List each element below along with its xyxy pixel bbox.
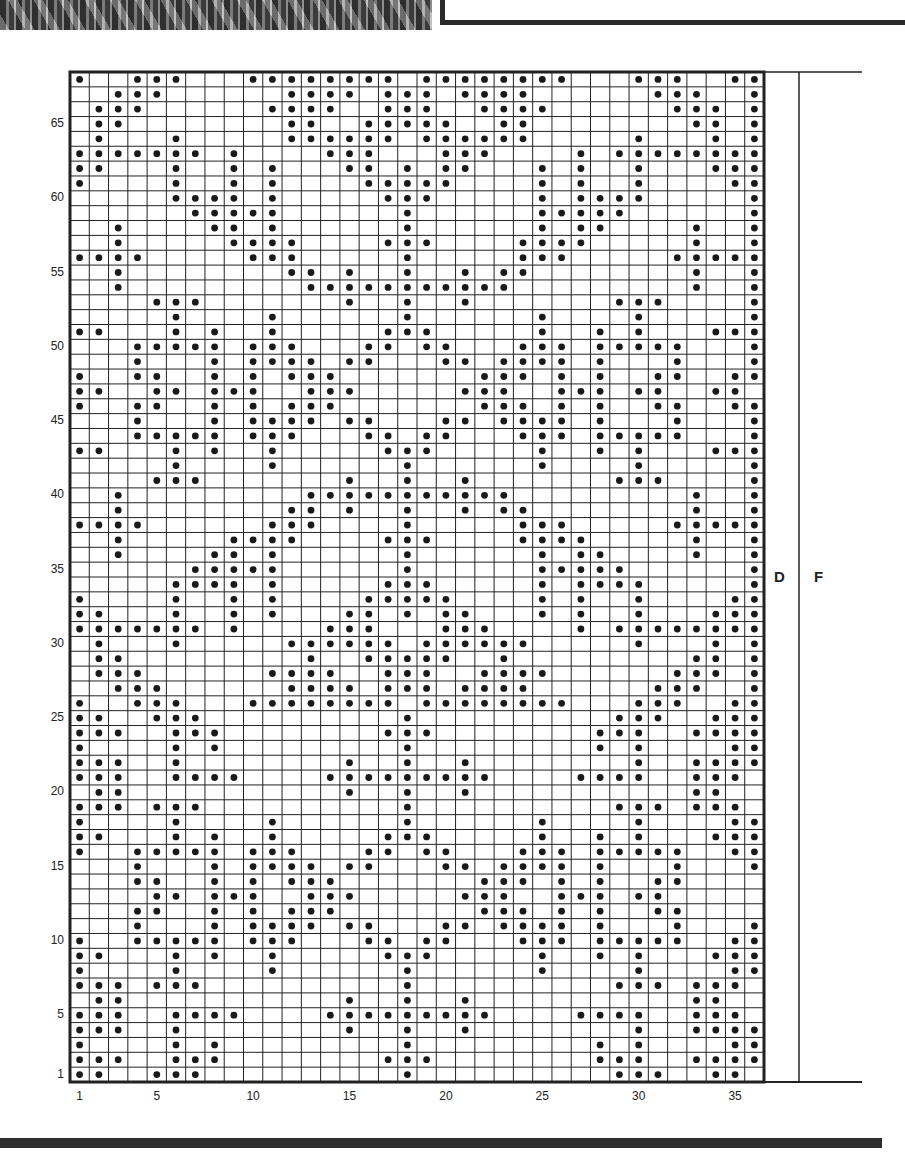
- stitch-dot: [231, 239, 238, 246]
- stitch-dot: [597, 225, 604, 232]
- stitch-dot: [520, 121, 527, 128]
- stitch-dot: [578, 611, 585, 618]
- stitch-dot: [462, 477, 469, 484]
- stitch-dot: [443, 848, 450, 855]
- stitch-dot: [635, 834, 642, 841]
- stitch-dot: [597, 358, 604, 365]
- stitch-dot: [76, 447, 83, 454]
- stitch-dot: [404, 759, 411, 766]
- stitch-dot: [674, 150, 681, 157]
- stitch-dot: [269, 566, 276, 573]
- stitch-dot: [192, 566, 199, 573]
- stitch-dot: [712, 165, 719, 172]
- stitch-dot: [655, 76, 662, 83]
- stitch-dot: [192, 715, 199, 722]
- stitch-dot: [693, 269, 700, 276]
- stitch-dot: [211, 210, 218, 217]
- stitch-dot: [288, 938, 295, 945]
- stitch-dot: [481, 150, 488, 157]
- stitch-dot: [308, 135, 315, 142]
- stitch-dot: [481, 626, 488, 633]
- stitch-dot: [211, 730, 218, 737]
- stitch-dot: [423, 670, 430, 677]
- stitch-dot: [404, 670, 411, 677]
- stitch-dot: [365, 284, 372, 291]
- stitch-dot: [173, 1071, 180, 1078]
- stitch-dot: [173, 1042, 180, 1049]
- stitch-dot: [385, 730, 392, 737]
- stitch-dot: [578, 210, 585, 217]
- stitch-dot: [211, 1012, 218, 1019]
- stitch-dot: [732, 1042, 739, 1049]
- stitch-dot: [173, 1056, 180, 1063]
- stitch-dot: [655, 150, 662, 157]
- stitch-dot: [308, 388, 315, 395]
- stitch-dot: [539, 522, 546, 529]
- stitch-dot: [269, 522, 276, 529]
- stitch-dot: [712, 715, 719, 722]
- stitch-dot: [674, 358, 681, 365]
- stitch-dot: [635, 1012, 642, 1019]
- stitch-dot: [173, 1012, 180, 1019]
- stitch-dot: [96, 611, 103, 618]
- stitch-dot: [558, 923, 565, 930]
- stitch-dot: [423, 537, 430, 544]
- stitch-dot: [693, 626, 700, 633]
- stitch-dot: [269, 967, 276, 974]
- stitch-dot: [308, 284, 315, 291]
- stitch-dot: [500, 507, 507, 514]
- stitch-dot: [385, 135, 392, 142]
- stitch-dot: [153, 299, 160, 306]
- stitch-dot: [327, 150, 334, 157]
- stitch-dot: [500, 121, 507, 128]
- stitch-dot: [269, 700, 276, 707]
- stitch-dot: [751, 744, 758, 751]
- stitch-dot: [269, 819, 276, 826]
- stitch-dot: [250, 358, 257, 365]
- stitch-dot: [712, 982, 719, 989]
- stitch-dot: [597, 744, 604, 751]
- stitch-dot: [192, 1071, 199, 1078]
- stitch-dot: [462, 1012, 469, 1019]
- stitch-dot: [346, 626, 353, 633]
- stitch-dot: [404, 730, 411, 737]
- stitch-dot: [616, 715, 623, 722]
- stitch-dot: [635, 433, 642, 440]
- stitch-dot: [751, 596, 758, 603]
- stitch-dot: [231, 210, 238, 217]
- stitch-dot: [578, 566, 585, 573]
- stitch-dot: [76, 834, 83, 841]
- stitch-dot: [635, 938, 642, 945]
- stitch-dot: [250, 76, 257, 83]
- stitch-dot: [539, 551, 546, 558]
- stitch-dot: [211, 834, 218, 841]
- stitch-dot: [327, 1012, 334, 1019]
- stitch-dot: [539, 462, 546, 469]
- stitch-dot: [173, 715, 180, 722]
- stitch-dot: [346, 284, 353, 291]
- stitch-dot: [597, 730, 604, 737]
- stitch-dot: [751, 537, 758, 544]
- stitch-dot: [751, 670, 758, 677]
- stitch-dot: [693, 91, 700, 98]
- stitch-dot: [231, 893, 238, 900]
- stitch-dot: [211, 848, 218, 855]
- stitch-dot: [674, 91, 681, 98]
- stitch-dot: [635, 700, 642, 707]
- stitch-dot: [192, 433, 199, 440]
- stitch-dot: [443, 492, 450, 499]
- stitch-dot: [404, 477, 411, 484]
- stitch-dot: [385, 685, 392, 692]
- stitch-dot: [134, 76, 141, 83]
- stitch-dot: [76, 150, 83, 157]
- stitch-dot: [674, 878, 681, 885]
- stitch-dot: [500, 700, 507, 707]
- stitch-dot: [288, 418, 295, 425]
- stitch-dot: [674, 522, 681, 529]
- stitch-dot: [308, 685, 315, 692]
- section-label-d: D: [774, 568, 785, 585]
- stitch-dot: [385, 834, 392, 841]
- stitch-dot: [269, 551, 276, 558]
- stitch-dot: [153, 403, 160, 410]
- stitch-dot: [423, 284, 430, 291]
